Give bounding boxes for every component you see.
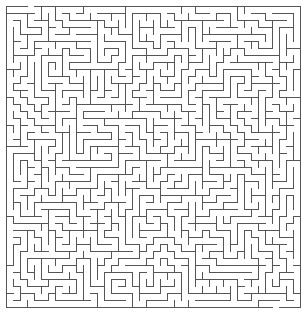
maze-image	[0, 0, 307, 315]
